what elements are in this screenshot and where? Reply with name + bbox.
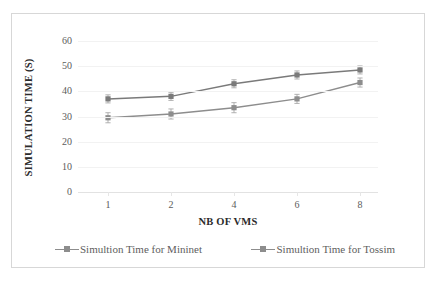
- x-tick-mark: [297, 192, 298, 196]
- data-point-marker: [357, 80, 362, 85]
- legend-item-tossim[interactable]: Simultion Time for Tossim: [251, 243, 395, 255]
- x-tick-mark: [108, 192, 109, 196]
- gridline: [78, 41, 378, 42]
- legend-label-tossim: Simultion Time for Tossim: [276, 243, 395, 255]
- y-tick-label: 0: [67, 187, 72, 197]
- x-tick-mark: [360, 192, 361, 196]
- legend-label-mininet: Simultion Time for Mininet: [80, 243, 202, 255]
- y-axis-tick-labels: 0102030405060: [48, 36, 72, 196]
- legend-item-mininet[interactable]: Simultion Time for Mininet: [55, 243, 202, 255]
- chart-legend: Simultion Time for Mininet Simultion Tim…: [55, 241, 395, 257]
- y-tick-label: 10: [62, 162, 72, 172]
- gridline: [78, 91, 378, 92]
- gridline: [78, 66, 378, 67]
- legend-line-marker-icon: [251, 244, 275, 254]
- x-tick-mark: [234, 192, 235, 196]
- gridline: [78, 117, 378, 118]
- y-tick-label: 20: [62, 137, 72, 147]
- data-point-marker: [168, 94, 173, 99]
- data-point-marker: [294, 96, 299, 101]
- data-point-marker: [231, 105, 236, 110]
- data-point-marker: [357, 67, 362, 72]
- chart-figure: SIMULATION TIME (S) 0102030405060 12468 …: [0, 0, 437, 281]
- y-tick-label: 50: [62, 61, 72, 71]
- plot-wrapper: SIMULATION TIME (S) 0102030405060 12468 …: [0, 0, 437, 281]
- x-tick-label: 2: [169, 199, 174, 210]
- y-tick-label: 40: [62, 86, 72, 96]
- plot-area: [78, 41, 378, 192]
- x-tick-label: 4: [232, 199, 237, 210]
- y-axis-title: SIMULATION TIME (S): [20, 40, 38, 195]
- x-axis-line: [78, 192, 378, 193]
- series-2: [105, 66, 362, 103]
- gridline: [78, 167, 378, 168]
- x-axis-title: NB OF VMS: [78, 216, 378, 227]
- data-point-marker: [105, 96, 110, 101]
- x-tick-label: 8: [358, 199, 363, 210]
- y-tick-label: 30: [62, 112, 72, 122]
- gridline: [78, 142, 378, 143]
- x-tick-label: 1: [106, 199, 111, 210]
- y-axis-title-text: SIMULATION TIME (S): [24, 59, 35, 177]
- legend-line-marker-icon: [55, 244, 79, 254]
- x-tick-label: 6: [295, 199, 300, 210]
- x-tick-mark: [171, 192, 172, 196]
- x-axis-tick-labels: 12468: [78, 199, 378, 213]
- y-tick-label: 60: [62, 36, 72, 46]
- data-point-marker: [294, 72, 299, 77]
- data-point-marker: [231, 81, 236, 86]
